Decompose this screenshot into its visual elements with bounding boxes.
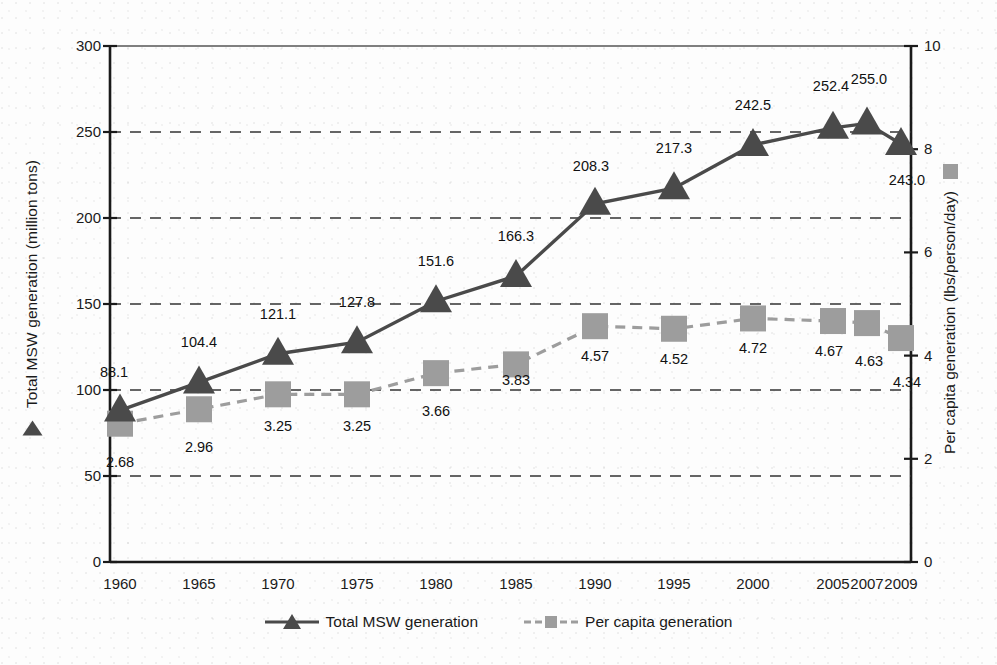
right-tick-2: 2 bbox=[924, 450, 932, 467]
data-label-percapita-1985: 3.83 bbox=[488, 372, 544, 388]
right-axis-title: Per capita generation (lbs/person/day) bbox=[941, 119, 959, 499]
legend-item-per-capita-generation[interactable]: Per capita generation bbox=[524, 613, 732, 631]
x-tick-1970: 1970 bbox=[248, 575, 308, 592]
left-tick-200: 200 bbox=[55, 209, 101, 226]
left-axis-title-text: Total MSW generation (million tons) bbox=[23, 160, 40, 408]
data-label-total-2007: 255.0 bbox=[841, 71, 897, 87]
right-tick-0: 0 bbox=[924, 553, 932, 570]
right-tick-6: 6 bbox=[924, 243, 932, 260]
left-tick-300: 300 bbox=[55, 37, 101, 54]
right-tick-10: 10 bbox=[924, 37, 941, 54]
x-tick-1990: 1990 bbox=[565, 575, 625, 592]
data-label-total-1985: 166.3 bbox=[488, 228, 544, 244]
data-label-percapita-1980: 3.66 bbox=[408, 403, 464, 419]
data-label-percapita-2009: 4.34 bbox=[879, 374, 935, 390]
data-label-total-1975: 127.8 bbox=[329, 294, 385, 310]
x-tick-1960: 1960 bbox=[90, 575, 150, 592]
data-label-percapita-1960: 2.68 bbox=[92, 454, 148, 470]
legend-marker-square bbox=[524, 613, 578, 631]
left-tick-100: 100 bbox=[55, 381, 101, 398]
right-axis-title-text: Per capita generation (lbs/person/day) bbox=[941, 191, 958, 454]
data-label-percapita-1975: 3.25 bbox=[329, 418, 385, 434]
data-label-total-1990: 208.3 bbox=[563, 158, 619, 174]
x-tick-1965: 1965 bbox=[169, 575, 229, 592]
x-tick-1975: 1975 bbox=[327, 575, 387, 592]
data-label-total-2009: 243.0 bbox=[879, 172, 935, 188]
data-label-percapita-2007: 4.63 bbox=[841, 353, 897, 369]
data-label-percapita-1970: 3.25 bbox=[250, 418, 306, 434]
x-tick-1985: 1985 bbox=[486, 575, 546, 592]
data-label-total-2000: 242.5 bbox=[725, 97, 781, 113]
gridlines bbox=[110, 132, 911, 476]
data-label-total-1980: 151.6 bbox=[408, 253, 464, 269]
legend-marker-triangle bbox=[265, 613, 319, 631]
left-axis-title: Total MSW generation (million tons) bbox=[23, 119, 41, 479]
data-label-total-1965: 104.4 bbox=[171, 334, 227, 350]
x-tick-2000: 2000 bbox=[723, 575, 783, 592]
data-label-percapita-1995: 4.52 bbox=[646, 351, 702, 367]
legend-label-total: Total MSW generation bbox=[326, 613, 479, 631]
data-label-total-1970: 121.1 bbox=[250, 306, 306, 322]
right-tick-4: 4 bbox=[924, 347, 932, 364]
legend-item-total-msw-generation[interactable]: Total MSW generation bbox=[265, 613, 479, 631]
left-tick-150: 150 bbox=[55, 295, 101, 312]
left-tick-250: 250 bbox=[55, 123, 101, 140]
legend-label-percapita: Per capita generation bbox=[585, 613, 732, 631]
x-tick-2009: 2009 bbox=[871, 575, 931, 592]
data-label-percapita-1965: 2.96 bbox=[171, 439, 227, 455]
data-label-percapita-2000: 4.72 bbox=[725, 340, 781, 356]
data-label-total-1995: 217.3 bbox=[646, 140, 702, 156]
square-icon bbox=[943, 164, 958, 179]
msw-generation-chart bbox=[0, 0, 997, 665]
data-label-total-1960: 88.1 bbox=[86, 364, 142, 380]
data-label-percapita-1990: 4.57 bbox=[567, 348, 623, 364]
x-tick-1995: 1995 bbox=[644, 575, 704, 592]
right-tick-8: 8 bbox=[924, 140, 932, 157]
x-tick-1980: 1980 bbox=[406, 575, 466, 592]
triangle-icon bbox=[23, 421, 43, 436]
chart-legend: Total MSW generation Per capita generati… bbox=[0, 613, 997, 631]
left-tick-0: 0 bbox=[55, 553, 101, 570]
